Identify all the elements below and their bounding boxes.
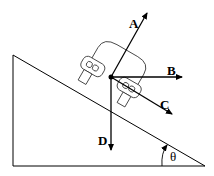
label-d: D (98, 133, 107, 148)
angle-arc (162, 145, 167, 166)
label-a: A (129, 16, 139, 31)
label-b: B (167, 63, 176, 78)
incline-diagram: θ A B C D (0, 0, 214, 176)
origin-point (109, 75, 114, 80)
force-vectors (109, 13, 183, 150)
label-c: C (160, 97, 169, 112)
theta-label: θ (170, 149, 176, 164)
